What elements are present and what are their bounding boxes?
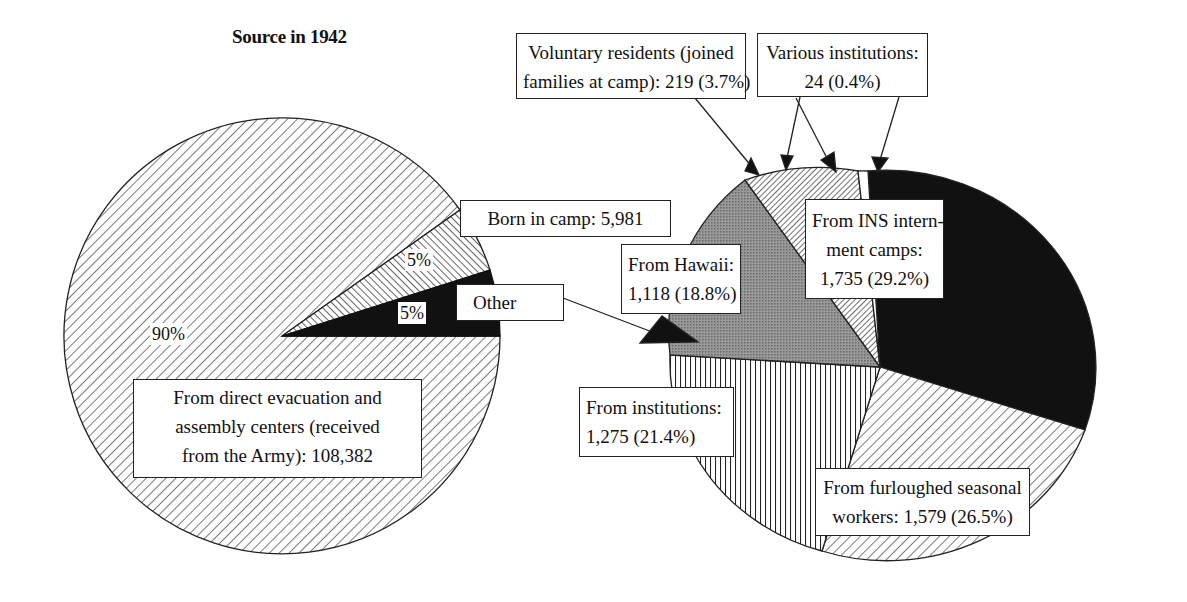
label-line: 1,275 (21.4%) bbox=[586, 422, 727, 451]
label-line: From furloughed seasonal bbox=[822, 473, 1023, 502]
pct-label-main: 90% bbox=[150, 323, 187, 345]
label-ins-internment: From INS intern- ment camps: 1,735 (29.2… bbox=[805, 199, 944, 299]
label-born-in-camp: Born in camp: 5,981 bbox=[460, 200, 671, 237]
chart-title: Source in 1942 bbox=[232, 26, 347, 48]
label-other: Other bbox=[456, 284, 564, 321]
label-hawaii: From Hawaii: 1,118 (18.8%) bbox=[621, 244, 741, 314]
label-line: From institutions: bbox=[586, 393, 727, 422]
label-line: 1,118 (18.8%) bbox=[628, 279, 734, 308]
label-line: 24 (0.4%) bbox=[764, 67, 921, 96]
label-line: ment camps: bbox=[812, 235, 937, 264]
label-direct-evacuation: From direct evacuation and assembly cent… bbox=[133, 379, 422, 478]
label-line: Voluntary residents (joined bbox=[523, 38, 739, 67]
label-line: 1,735 (29.2%) bbox=[812, 264, 937, 293]
label-voluntary-residents: Voluntary residents (joined families at … bbox=[516, 33, 746, 99]
pct-label-other: 5% bbox=[398, 302, 426, 324]
label-line: from the Army): 108,382 bbox=[140, 441, 415, 470]
label-line: From Hawaii: bbox=[628, 250, 734, 279]
label-furloughed-workers: From furloughed seasonal workers: 1,579 … bbox=[815, 468, 1030, 536]
label-various-institutions: Various institutions: 24 (0.4%) bbox=[757, 33, 928, 97]
label-line: From INS intern- bbox=[812, 206, 937, 235]
label-line: assembly centers (received bbox=[140, 412, 415, 441]
label-line: families at camp): 219 (3.7%) bbox=[523, 67, 739, 96]
label-line: workers: 1,579 (26.5%) bbox=[822, 502, 1023, 531]
label-institutions: From institutions: 1,275 (21.4%) bbox=[579, 387, 734, 457]
pct-label-born: 5% bbox=[405, 249, 433, 271]
label-line: Various institutions: bbox=[764, 38, 921, 67]
label-line: From direct evacuation and bbox=[140, 383, 415, 412]
